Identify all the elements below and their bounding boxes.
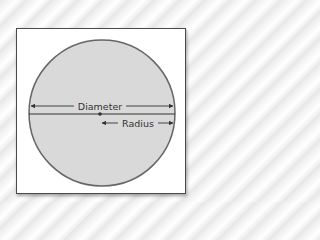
circle-diagram: Diameter Radius (0, 0, 203, 202)
radius-label: Radius (122, 118, 154, 129)
center-point (98, 112, 102, 116)
diameter-label: Diameter (78, 101, 122, 112)
circle (29, 40, 175, 186)
